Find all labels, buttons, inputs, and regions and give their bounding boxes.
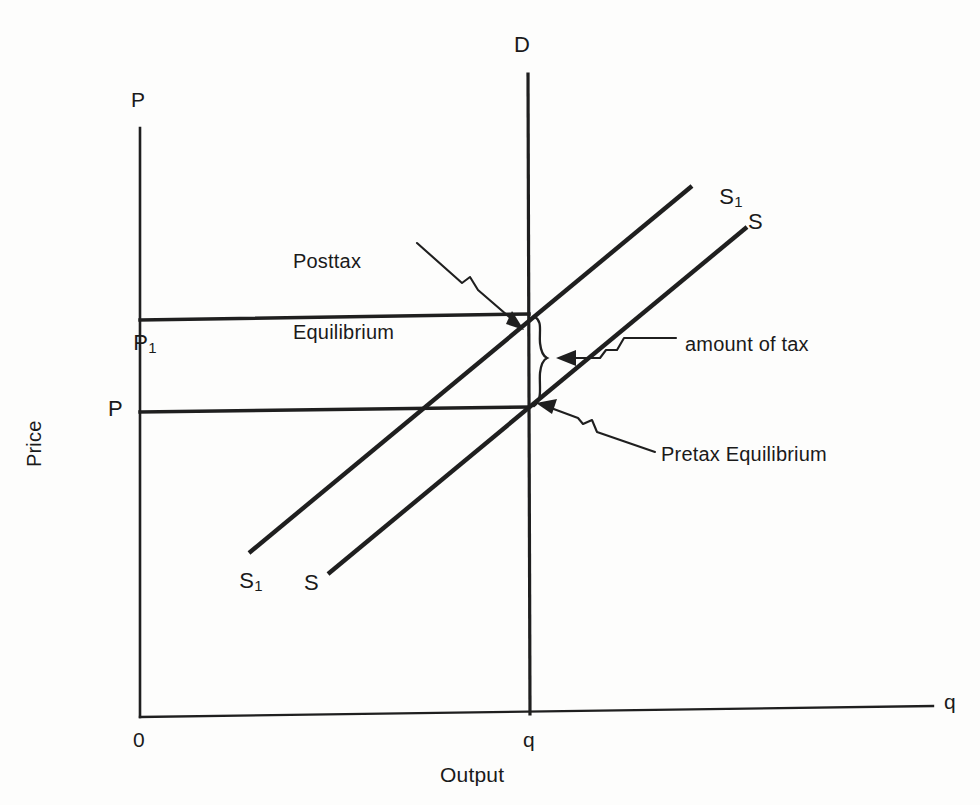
supply-s1-upper-base: S	[719, 184, 734, 209]
quantity-tick-label: q	[523, 728, 535, 753]
supply-curve-s1-label-lower: S1	[214, 542, 262, 621]
x-axis-end-label: q	[944, 690, 956, 715]
axes-group	[140, 128, 933, 717]
x-axis-line	[140, 706, 933, 717]
x-axis-title: Output	[440, 763, 504, 788]
posttax-equilibrium-annotation: Posttax Equilibrium	[293, 203, 394, 392]
price-label-p1-base: P	[133, 330, 148, 355]
y-axis-title: Price	[23, 404, 47, 484]
supply-curve-s-label-upper: S	[748, 209, 763, 235]
y-axis-top-label: P	[131, 88, 145, 113]
supply-curve-s-label-lower: S	[304, 570, 319, 596]
amount-of-tax-annotation: amount of tax	[685, 333, 809, 357]
origin-label: 0	[133, 728, 145, 753]
pretax-equilibrium-annotation: Pretax Equilibrium	[661, 443, 827, 467]
price-label-p: P	[108, 396, 123, 422]
posttax-annotation-line1: Posttax	[293, 250, 394, 274]
supply-s1-upper-subscript: 1	[734, 193, 742, 210]
amount-of-tax-arrowhead	[556, 350, 576, 366]
supply-s1-lower-base: S	[239, 568, 254, 593]
supply-curve-s1-label-upper: S1	[694, 158, 742, 237]
demand-curve-line	[528, 74, 530, 714]
supply-s1-lower-subscript: 1	[254, 577, 262, 594]
supply-demand-tax-figure: D P Price P1 P S1 S S1 S Posttax Equilib…	[0, 0, 980, 805]
pretax-equilibrium-leader	[536, 399, 655, 452]
chart-canvas	[0, 0, 980, 805]
amount-of-tax-leader	[556, 338, 676, 366]
price-label-p1: P1	[108, 304, 156, 383]
demand-curve-label: D	[514, 32, 530, 58]
price-line-p	[140, 407, 529, 412]
posttax-annotation-line2: Equilibrium	[293, 321, 394, 345]
price-label-p1-subscript: 1	[148, 339, 156, 356]
